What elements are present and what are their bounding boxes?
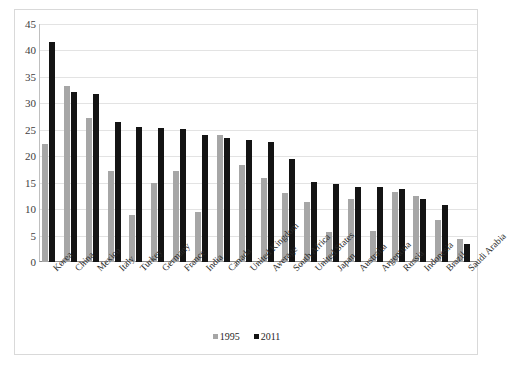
legend-label: 2011 xyxy=(261,331,281,342)
legend-item-1995[interactable]: 1995 xyxy=(213,331,240,342)
bar-group xyxy=(39,24,61,262)
bar-group xyxy=(148,24,170,262)
bar-2011-australia xyxy=(355,187,361,262)
bar-group xyxy=(258,24,280,262)
y-axis-tick-label: 0 xyxy=(2,257,36,268)
x-axis-category-labels: KoreaChinaMexicoItalyTurkeyGermanyFrance… xyxy=(39,266,484,328)
bar-group xyxy=(170,24,192,262)
bar-2011-turkey xyxy=(136,127,142,262)
y-axis-tick-label: 15 xyxy=(2,177,36,188)
bar-group xyxy=(126,24,148,262)
bars-layer xyxy=(39,24,476,262)
y-axis-tick-labels: 051015202530354045 xyxy=(0,24,36,262)
bar-group xyxy=(367,24,389,262)
bar-1995-mexico xyxy=(86,118,92,262)
y-axis-tick-label: 35 xyxy=(2,71,36,82)
bar-2011-canada xyxy=(224,138,230,262)
bar-2011-china xyxy=(71,92,77,262)
bar-1995-korea xyxy=(42,144,48,262)
bar-2011-germany xyxy=(158,128,164,262)
y-axis-tick-label: 25 xyxy=(2,124,36,135)
legend-label: 1995 xyxy=(220,331,240,342)
bar-2011-mexico xyxy=(93,94,99,262)
bar-group xyxy=(345,24,367,262)
bar-group xyxy=(214,24,236,262)
bar-group xyxy=(323,24,345,262)
bar-2011-saudi-arabia xyxy=(464,244,470,263)
y-axis-tick-label: 45 xyxy=(2,19,36,30)
y-axis-tick-label: 20 xyxy=(2,151,36,162)
bar-group xyxy=(454,24,476,262)
bar-2011-korea xyxy=(49,42,55,262)
legend-item-2011[interactable]: 2011 xyxy=(254,331,281,342)
bar-group xyxy=(192,24,214,262)
bar-group xyxy=(432,24,454,262)
bar-1995-canada xyxy=(217,135,223,262)
bar-group xyxy=(61,24,83,262)
bar-group xyxy=(410,24,432,262)
bar-group xyxy=(389,24,411,262)
bar-group xyxy=(236,24,258,262)
bar-1995-china xyxy=(64,86,70,262)
y-axis-tick-label: 40 xyxy=(2,45,36,56)
bar-2011-united-kingdom xyxy=(246,140,252,262)
y-axis-tick-label: 5 xyxy=(2,230,36,241)
bar-2011-italy xyxy=(115,122,121,262)
y-axis-tick-label: 10 xyxy=(2,204,36,215)
bar-group xyxy=(105,24,127,262)
bar-2011-india xyxy=(202,135,208,262)
legend-swatch-icon xyxy=(254,334,259,339)
bar-group xyxy=(83,24,105,262)
chart-legend: 19952011 xyxy=(0,331,493,342)
bar-group xyxy=(301,24,323,262)
legend-swatch-icon xyxy=(213,334,218,339)
y-axis-tick-label: 30 xyxy=(2,98,36,109)
